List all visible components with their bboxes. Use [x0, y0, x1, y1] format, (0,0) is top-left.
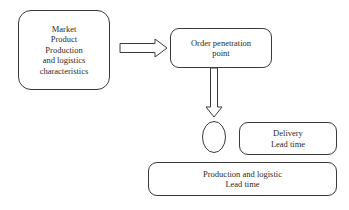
- node-market-product-characteristics: Market Product Production and logistics …: [18, 10, 110, 90]
- node-production-and-logistic-lead-time: Production and logistic Lead time: [148, 162, 337, 196]
- junction-ellipse: [203, 122, 226, 153]
- arrow-characteristics-to-opp: [120, 39, 167, 57]
- diagram-canvas: Market Product Production and logistics …: [0, 0, 349, 210]
- node-order-penetration-point: Order penetration point: [170, 28, 272, 68]
- arrow-opp-to-junction: [206, 68, 222, 117]
- node-delivery-lead-time: Delivery Lead time: [239, 122, 337, 155]
